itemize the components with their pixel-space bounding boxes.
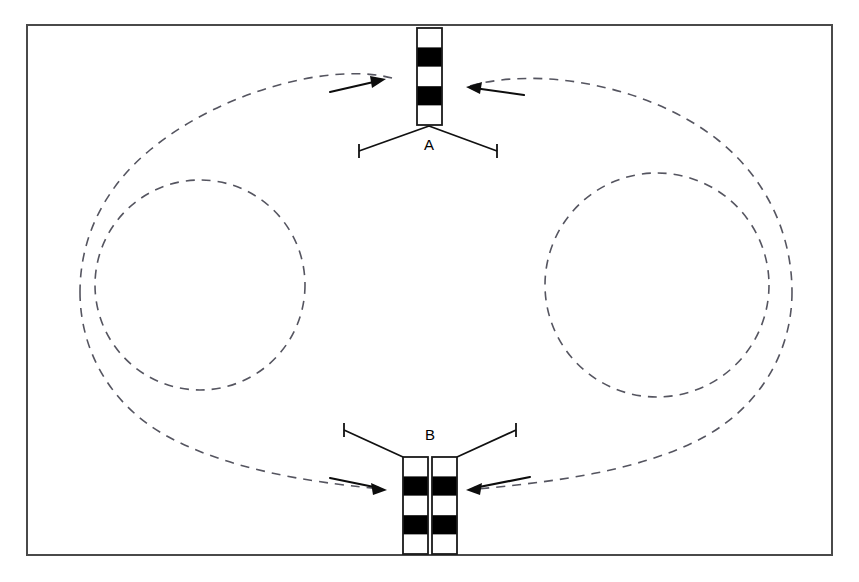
bar-b1-segment-1 [403, 457, 428, 476]
bar-b1-segment-3 [403, 496, 428, 515]
outer-loop-left-upper [80, 74, 392, 292]
outer-loop-right-upper [470, 78, 792, 292]
arrow-upper-left [330, 76, 386, 92]
bar-b2-segment-1 [432, 457, 457, 476]
diagram-canvas: A B [0, 0, 859, 582]
bar-a-segment-3 [417, 67, 442, 86]
bar-b2-segment-4 [432, 515, 457, 534]
bar-b1-segment-2 [403, 476, 428, 495]
outer-loop-right-lower [478, 292, 792, 489]
bar-a-segment-4 [417, 86, 442, 105]
bar-a-segment-2 [417, 47, 442, 66]
structure-b-vee-right [457, 430, 516, 457]
label-b: B [425, 426, 435, 443]
bar-a-segment-1 [417, 28, 442, 47]
bar-b1-segment-5 [403, 535, 428, 554]
bar-b1-segment-4 [403, 515, 428, 534]
left-circulation-circle [95, 180, 305, 390]
bar-b2-segment-3 [432, 496, 457, 515]
arrow-lower-right [466, 477, 530, 495]
right-circulation-circle [545, 173, 769, 397]
label-a: A [424, 136, 434, 153]
structure-a-vee-right [429, 126, 497, 151]
outer-loop-left-lower [80, 292, 382, 489]
structure-a: A [359, 28, 497, 158]
figure-root: A B [0, 0, 859, 582]
structure-b-vee-left [344, 430, 403, 457]
bar-a-segment-5 [417, 106, 442, 125]
bar-b2-segment-5 [432, 535, 457, 554]
structure-a-vee-left [359, 126, 429, 151]
bar-b2-segment-2 [432, 476, 457, 495]
